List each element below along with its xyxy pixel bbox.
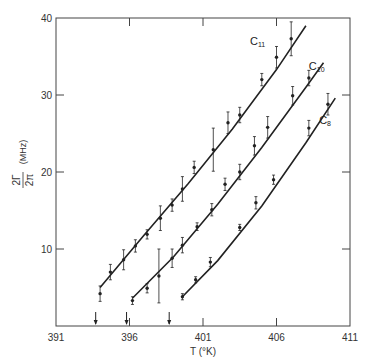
data-point <box>145 287 148 290</box>
data-point <box>226 121 229 124</box>
arrow-down-icon <box>125 320 129 325</box>
arrow-down-icon <box>94 320 98 325</box>
curve-label-main: C <box>250 35 258 47</box>
data-point <box>98 292 101 295</box>
data-point <box>122 258 125 261</box>
data-point <box>307 126 310 129</box>
temperature-arrows <box>94 312 172 325</box>
data-point <box>291 94 294 97</box>
y-axis-title-numerator: 2Γ <box>11 174 22 186</box>
series-c8 <box>181 93 336 299</box>
x-axis-title: T (°K) <box>190 346 216 357</box>
plot-border <box>56 18 350 326</box>
arrow-down-icon <box>167 320 171 325</box>
data-point <box>181 243 184 246</box>
data-point <box>109 270 112 273</box>
axis-ticks <box>56 18 350 326</box>
data-point <box>260 78 263 81</box>
y-axis-title-unit: (MHz) <box>18 140 28 165</box>
data-point <box>170 257 173 260</box>
curve-label-subscript: 8 <box>327 120 331 127</box>
data-point <box>181 295 184 298</box>
data-point <box>131 299 134 302</box>
x-tick-label: 411 <box>342 332 358 343</box>
x-tick-label: 401 <box>195 332 212 343</box>
data-point <box>238 170 241 173</box>
data-point <box>272 178 275 181</box>
data-point <box>170 203 173 206</box>
curve-label-main: C <box>319 114 327 126</box>
data-point <box>212 148 215 151</box>
curve-label-c8: C8 <box>319 114 331 127</box>
data-point <box>194 278 197 281</box>
fit-line <box>100 26 306 288</box>
series-c10 <box>131 63 324 305</box>
y-tick-label: 40 <box>41 13 53 24</box>
curve-label-subscript: 11 <box>258 41 265 48</box>
x-tick-label: 391 <box>48 332 65 343</box>
y-tick-label: 20 <box>41 167 53 178</box>
data-point <box>253 144 256 147</box>
data-point <box>223 183 226 186</box>
chart: 39139640140641110203040 C11C10C8 T (°K) … <box>0 0 372 363</box>
curve-label-subscript: 10 <box>317 66 325 73</box>
curve-label-main: C <box>309 60 317 72</box>
series-layer <box>98 22 335 305</box>
data-point <box>195 225 198 228</box>
plot-frame <box>56 18 350 326</box>
data-point <box>134 244 137 247</box>
data-point <box>238 113 241 116</box>
data-point <box>181 187 184 190</box>
data-point <box>266 126 269 129</box>
y-tick-label: 10 <box>41 244 53 255</box>
data-point <box>290 37 293 40</box>
fit-line <box>182 98 335 297</box>
data-point <box>238 226 241 229</box>
fit-line <box>132 63 323 299</box>
data-point <box>307 76 310 79</box>
y-axis-title-denominator: 2π <box>24 174 35 187</box>
data-point <box>326 103 329 106</box>
data-point <box>275 56 278 59</box>
data-point <box>157 274 160 277</box>
y-axis-title: 2Γ 2π (MHz) <box>11 140 35 188</box>
data-point <box>209 260 212 263</box>
data-point <box>210 208 213 211</box>
data-point <box>159 217 162 220</box>
curve-label-c10: C10 <box>309 60 325 73</box>
y-tick-label: 30 <box>41 90 53 101</box>
curve-label-c11: C11 <box>250 35 265 48</box>
data-point <box>192 166 195 169</box>
data-point <box>145 233 148 236</box>
x-tick-label: 396 <box>121 332 138 343</box>
data-point <box>254 201 257 204</box>
series-c11 <box>98 22 306 302</box>
x-tick-label: 406 <box>268 332 285 343</box>
